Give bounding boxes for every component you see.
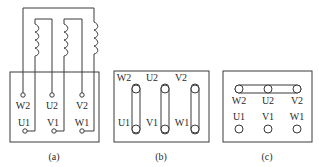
terminal-u2	[50, 93, 54, 97]
caption-a: (a)	[48, 151, 59, 163]
motor-terminal-diagram: W2 U2 V2 U1 V1 W1 (a) W2 U2 V2 U1 V1 W1 …	[0, 0, 319, 167]
terminal-u1	[132, 125, 140, 133]
terminal-v2	[80, 93, 84, 97]
label-w2: W2	[232, 95, 246, 106]
terminal-v1	[264, 125, 272, 133]
label-v2: V2	[76, 100, 88, 111]
label-v2: V2	[291, 95, 303, 106]
label-w2: W2	[117, 72, 131, 83]
terminal-w2	[235, 85, 243, 93]
label-w1: W1	[290, 111, 304, 122]
panel-b: W2 U2 V2 U1 V1 W1 (b)	[114, 71, 209, 163]
caption-b: (b)	[155, 151, 167, 163]
panel-a: W2 U2 V2 U1 V1 W1 (a)	[10, 8, 99, 163]
label-u1: U1	[233, 111, 245, 122]
label-u2: U2	[146, 72, 158, 83]
label-w2: W2	[16, 100, 30, 111]
label-u1: U1	[18, 117, 30, 128]
terminal-v1	[52, 129, 56, 133]
coil-v-icon	[64, 24, 68, 58]
terminal-v1	[161, 125, 169, 133]
label-v1: V1	[262, 111, 274, 122]
label-v1: V1	[47, 117, 59, 128]
terminal-u2	[161, 85, 169, 93]
terminal-v2	[293, 85, 301, 93]
label-u2: U2	[46, 100, 58, 111]
terminal-u1	[23, 129, 27, 133]
panel-c: W2 U2 V2 U1 V1 W1 (c)	[223, 71, 312, 163]
terminal-w2	[132, 85, 140, 93]
terminal-v2	[191, 85, 199, 93]
label-w1: W1	[75, 117, 89, 128]
coil-w-icon	[94, 22, 98, 58]
terminal-w2	[21, 93, 25, 97]
label-v1: V1	[146, 117, 158, 128]
label-v2: V2	[175, 72, 187, 83]
terminal-u1	[235, 125, 243, 133]
wire-w2-outer	[23, 8, 94, 93]
terminal-w1	[80, 129, 84, 133]
caption-c: (c)	[261, 151, 272, 163]
coil-u-icon	[35, 24, 39, 58]
label-u1: U1	[118, 117, 130, 128]
wire-u-loop	[35, 19, 52, 93]
terminal-u2	[264, 85, 272, 93]
label-w1: W1	[175, 117, 189, 128]
terminal-w1	[191, 125, 199, 133]
terminal-w1	[293, 125, 301, 133]
label-u2: U2	[262, 95, 274, 106]
